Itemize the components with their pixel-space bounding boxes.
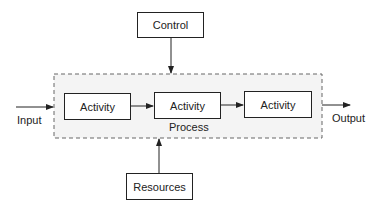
resources-box: Resources [126, 173, 193, 200]
activity-label: Activity [261, 99, 296, 111]
input-label: Input [17, 114, 41, 126]
activity-box-2: Activity [154, 92, 221, 119]
activity-box-3: Activity [244, 91, 312, 118]
control-label: Control [153, 19, 188, 31]
activity-label: Activity [80, 101, 115, 113]
resources-label: Resources [133, 181, 186, 193]
control-box: Control [137, 12, 204, 38]
output-label: Output [332, 112, 365, 124]
process-label: Process [169, 121, 209, 133]
activity-box-1: Activity [64, 93, 131, 120]
activity-label: Activity [170, 100, 205, 112]
